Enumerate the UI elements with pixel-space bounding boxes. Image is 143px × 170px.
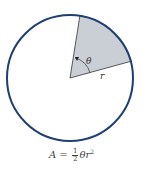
fraction: 12 bbox=[72, 148, 78, 163]
theta-label: θ bbox=[86, 56, 92, 66]
denominator: 2 bbox=[72, 156, 78, 163]
formula-exponent: 2 bbox=[90, 148, 94, 155]
formula-equals: = bbox=[59, 149, 67, 160]
sector-diagram: θ r bbox=[0, 0, 143, 170]
area-formula: A = 12θr2 bbox=[0, 148, 143, 163]
radius-label: r bbox=[100, 71, 105, 81]
shaded-sector bbox=[70, 15, 132, 78]
formula-lhs: A bbox=[49, 149, 56, 160]
